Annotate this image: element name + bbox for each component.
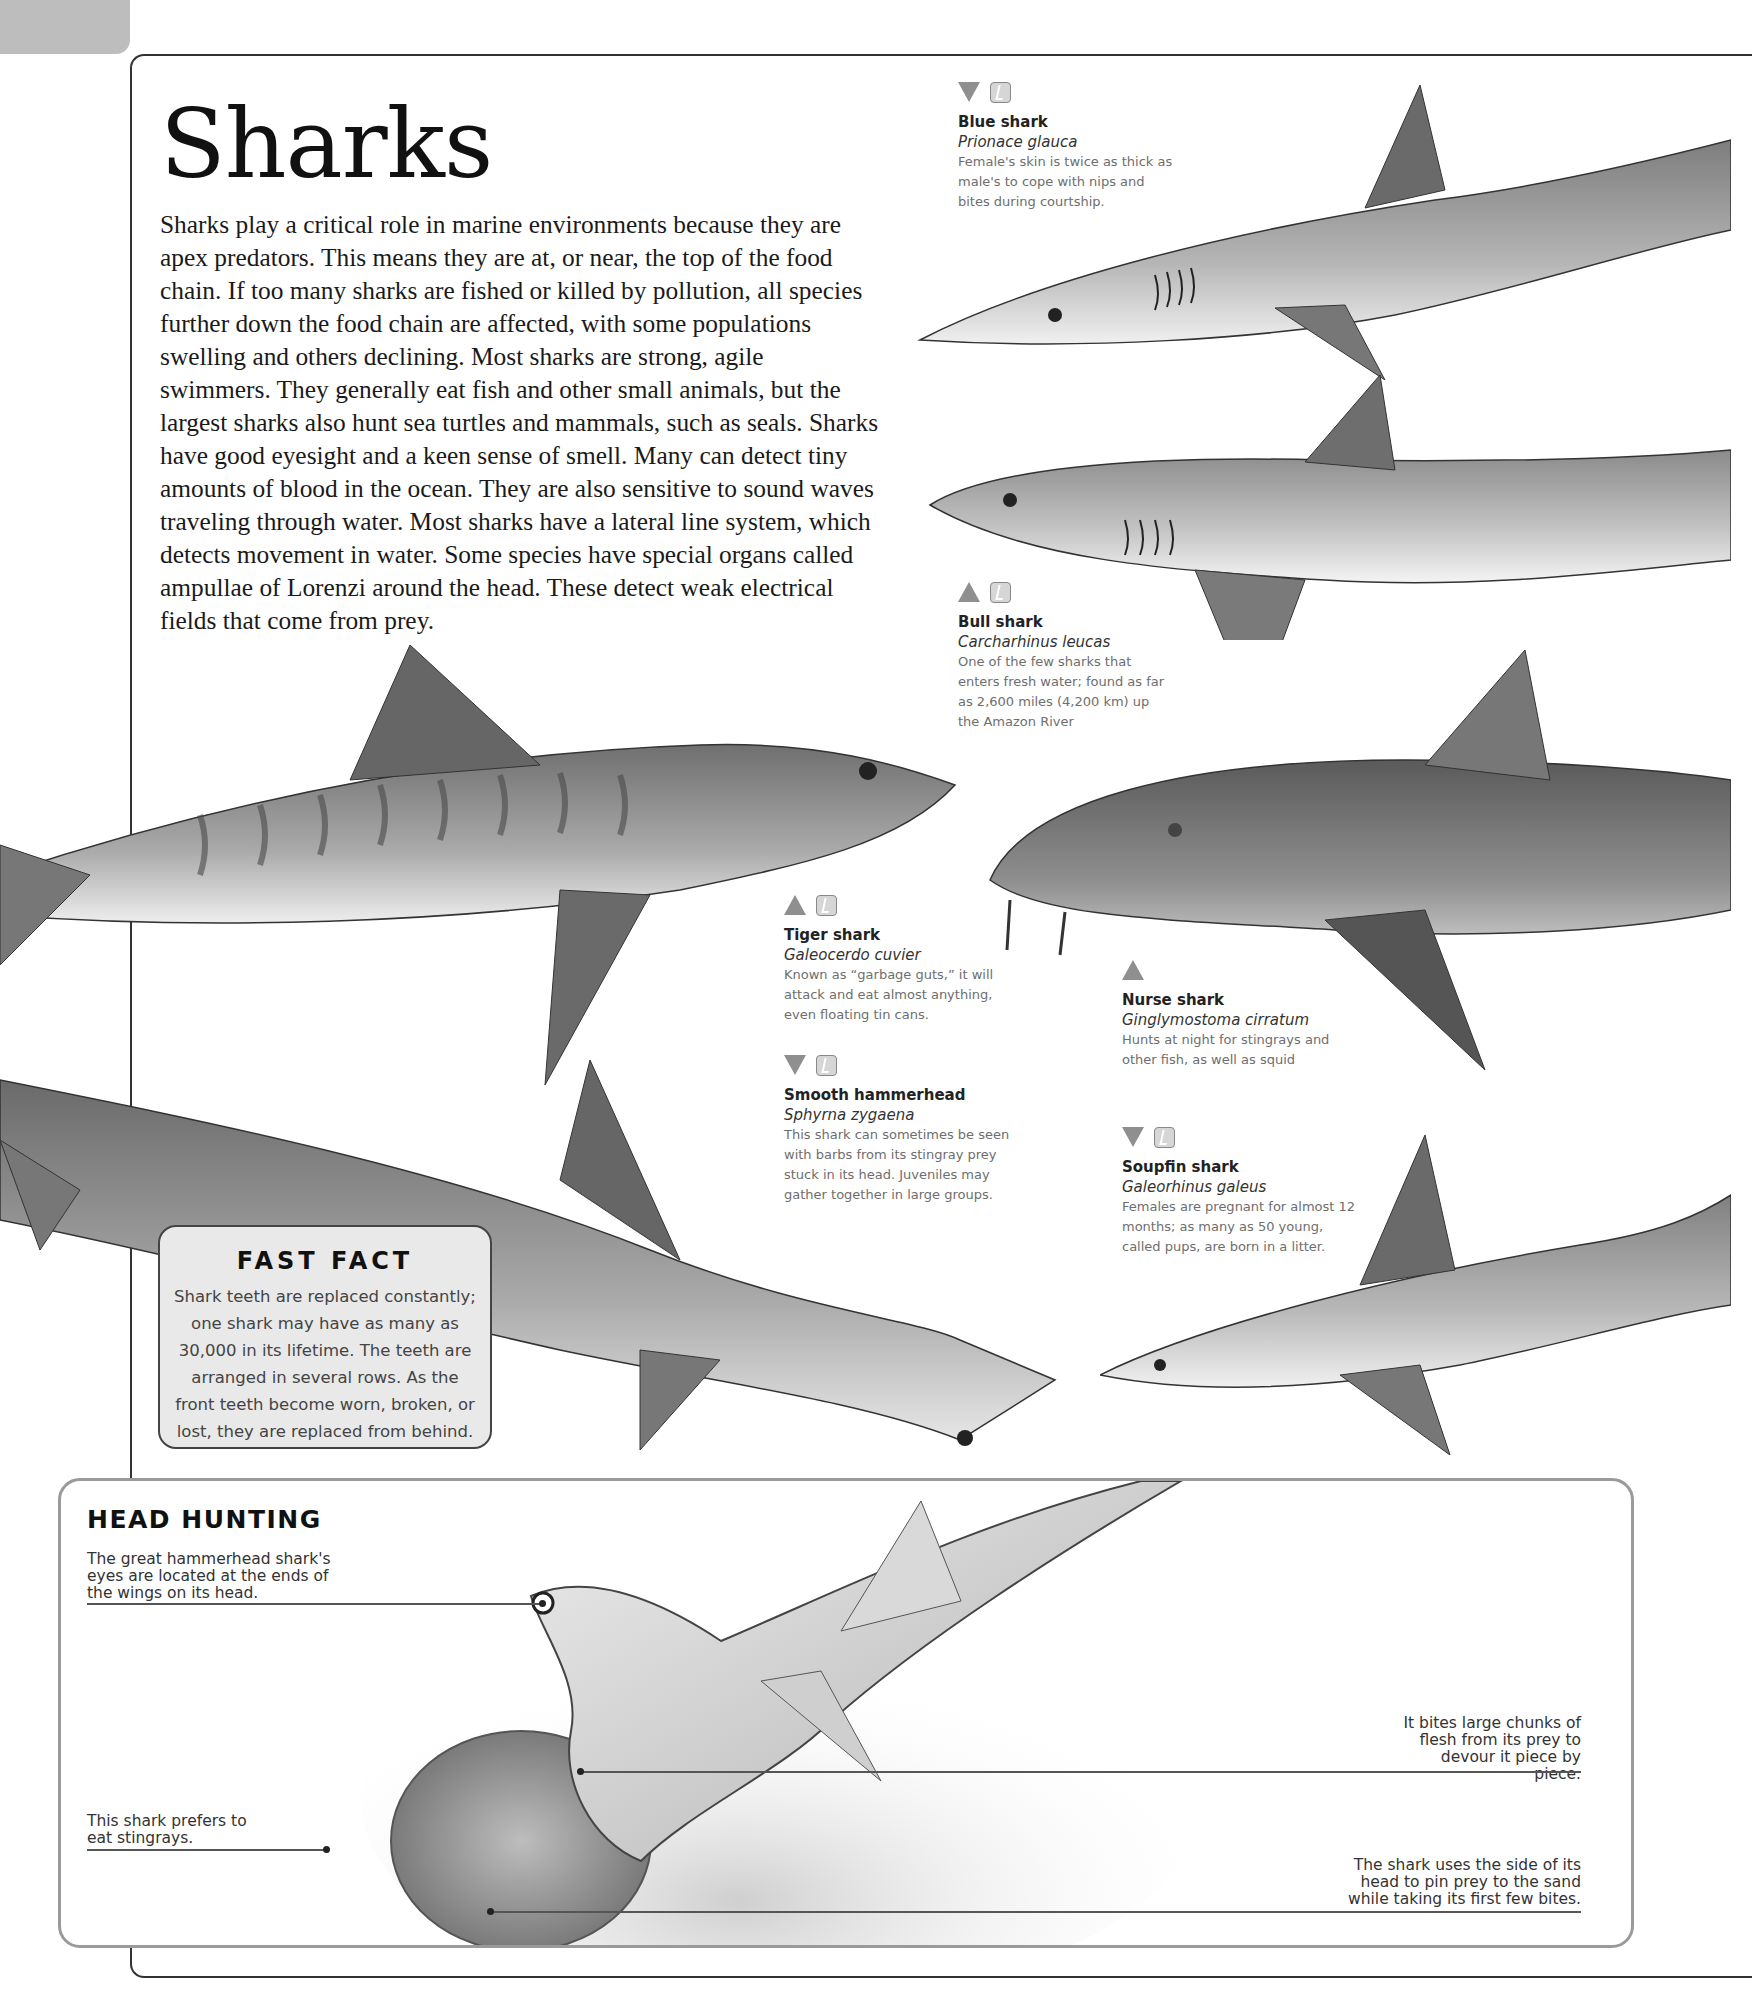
conservation-status-icon <box>816 1055 837 1076</box>
head-hunting-heading: HEAD HUNTING <box>87 1505 322 1534</box>
species-latin-name: Galeorhinus galeus <box>1122 1177 1357 1197</box>
fast-fact-box: FAST FACT Shark teeth are replaced const… <box>158 1225 492 1449</box>
species-description: One of the few sharks that enters fresh … <box>958 652 1173 732</box>
species-caption-smooth-hammerhead: Smooth hammerhead Sphyrna zygaena This s… <box>784 1053 1019 1205</box>
fast-fact-heading: FAST FACT <box>160 1247 490 1275</box>
note-pins-prey: The shark uses the side of its head to p… <box>1341 1857 1581 1908</box>
page-number-tab <box>0 0 130 54</box>
conservation-status-icon <box>990 582 1011 603</box>
conservation-status-icon <box>1154 1127 1175 1148</box>
population-decreasing-icon <box>784 1055 806 1075</box>
note-eye-position: The great hammerhead shark's eyes are lo… <box>87 1551 347 1602</box>
species-description: This shark can sometimes be seen with ba… <box>784 1125 1019 1205</box>
species-name: Blue shark <box>958 112 1178 132</box>
species-caption-nurse-shark: Nurse shark Ginglymostoma cirratum Hunts… <box>1122 958 1352 1070</box>
leader-dot <box>539 1600 546 1607</box>
species-latin-name: Ginglymostoma cirratum <box>1122 1010 1352 1030</box>
species-name: Smooth hammerhead <box>784 1085 1019 1105</box>
species-description: Females are pregnant for almost 12 month… <box>1122 1197 1357 1257</box>
population-increasing-icon <box>784 895 806 915</box>
hammerhead-hunting-illustration <box>361 1481 1461 1948</box>
population-increasing-icon <box>958 582 980 602</box>
head-hunting-panel: HEAD HUNTING The great hammerhead shark'… <box>58 1478 1634 1948</box>
population-decreasing-icon <box>1122 1127 1144 1147</box>
note-bites-chunks: It bites large chunks of flesh from its … <box>1396 1715 1581 1783</box>
species-name: Nurse shark <box>1122 990 1352 1010</box>
note-prefers-stingrays: This shark prefers to eat stingrays. <box>87 1813 247 1847</box>
conservation-status-icon <box>990 82 1011 103</box>
species-description: Hunts at night for stingrays and other f… <box>1122 1030 1352 1070</box>
species-name: Tiger shark <box>784 925 1019 945</box>
leader-line <box>87 1603 543 1605</box>
leader-line <box>581 1771 1581 1773</box>
species-caption-bull-shark: Bull shark Carcharhinus leucas One of th… <box>958 580 1173 732</box>
conservation-status-icon <box>816 895 837 916</box>
leader-line <box>87 1849 327 1851</box>
leader-dot <box>323 1846 330 1853</box>
species-caption-soupfin-shark: Soupfin shark Galeorhinus galeus Females… <box>1122 1125 1357 1257</box>
species-latin-name: Prionace glauca <box>958 132 1178 152</box>
species-description: Known as “garbage guts,” it will attack … <box>784 965 1019 1025</box>
population-decreasing-icon <box>958 82 980 102</box>
intro-paragraph: Sharks play a critical role in marine en… <box>160 208 880 637</box>
leader-line <box>491 1911 1581 1913</box>
leader-dot <box>577 1768 584 1775</box>
species-latin-name: Galeocerdo cuvier <box>784 945 1019 965</box>
species-latin-name: Sphyrna zygaena <box>784 1105 1019 1125</box>
leader-dot <box>487 1908 494 1915</box>
species-caption-blue-shark: Blue shark Prionace glauca Female's skin… <box>958 80 1178 212</box>
species-description: Female's skin is twice as thick as male'… <box>958 152 1178 212</box>
page-title: Sharks <box>160 88 492 200</box>
species-name: Soupfin shark <box>1122 1157 1357 1177</box>
species-caption-tiger-shark: Tiger shark Galeocerdo cuvier Known as “… <box>784 893 1019 1025</box>
species-latin-name: Carcharhinus leucas <box>958 632 1173 652</box>
population-increasing-icon <box>1122 960 1144 980</box>
species-name: Bull shark <box>958 612 1173 632</box>
fast-fact-text: Shark teeth are replaced constantly; one… <box>160 1283 490 1445</box>
